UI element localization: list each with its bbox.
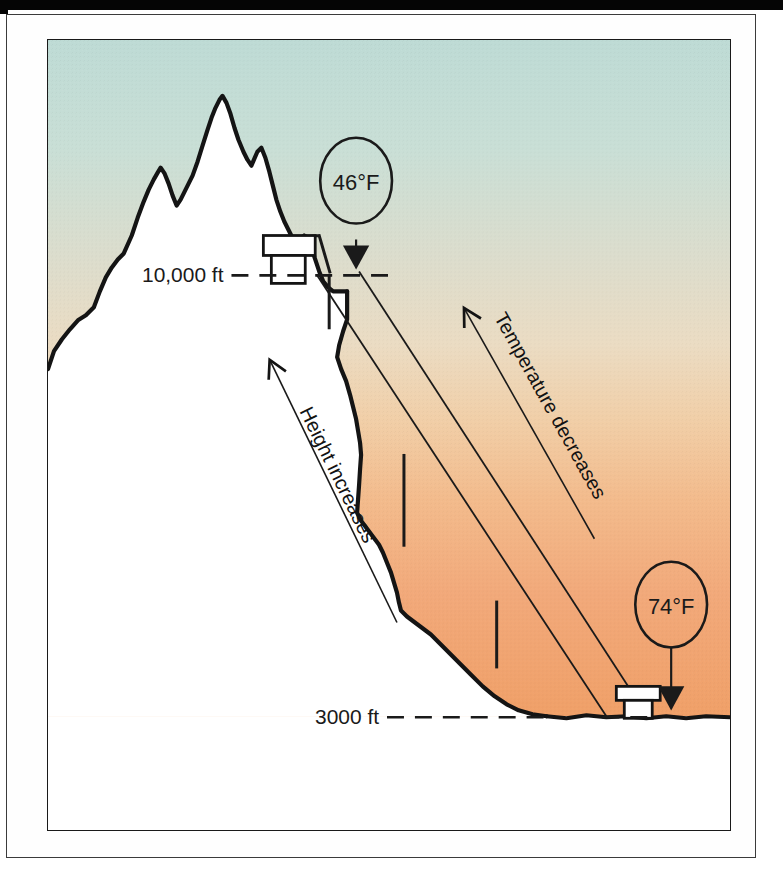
temperature-value-summit: 46°F bbox=[333, 170, 380, 195]
valley-building-roof bbox=[616, 686, 660, 700]
elevation-label-lower: 3000 ft bbox=[315, 705, 379, 728]
page-root: 10,000 ft 3000 ft 46°F 74°F Height incre… bbox=[0, 0, 783, 880]
temperature-value-valley: 74°F bbox=[648, 594, 695, 619]
summit-building-roof bbox=[263, 236, 315, 256]
below-ground-white bbox=[48, 716, 730, 830]
mountain-temperature-diagram: 10,000 ft 3000 ft 46°F 74°F Height incre… bbox=[48, 40, 730, 830]
scan-edge-band-top bbox=[0, 0, 783, 10]
summit-building-body bbox=[271, 255, 305, 283]
figure-box: 10,000 ft 3000 ft 46°F 74°F Height incre… bbox=[47, 39, 731, 831]
elevation-label-upper: 10,000 ft bbox=[142, 263, 224, 286]
scan-edge-band-left bbox=[0, 0, 8, 14]
valley-building-body bbox=[624, 700, 652, 718]
